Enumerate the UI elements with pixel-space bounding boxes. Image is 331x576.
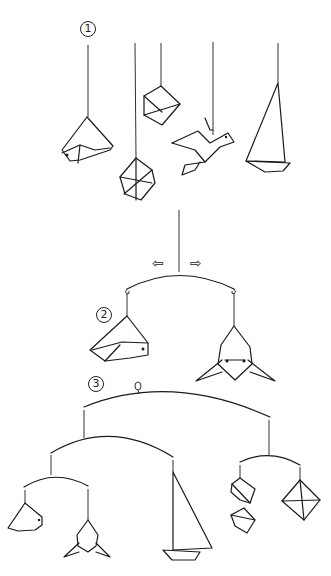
diamond-model-icon <box>120 158 155 200</box>
step-1-models <box>62 42 290 200</box>
bird-model-icon <box>8 503 42 531</box>
step-2-balance: ⇦ ⇨ <box>90 210 275 381</box>
cube-model-icon <box>231 478 255 503</box>
hanging-loop-icon <box>135 382 141 390</box>
sailboat-model-icon <box>246 83 290 172</box>
bird-model-icon <box>90 316 148 361</box>
fish-model-icon <box>64 520 110 557</box>
sailboat-model-icon <box>163 472 212 560</box>
cube-model-icon <box>231 508 255 533</box>
diamond-model-icon <box>282 480 320 520</box>
step-3-complete-mobile <box>8 382 320 560</box>
cube-model-icon <box>144 86 180 125</box>
bird-model-icon <box>62 117 113 163</box>
dove-model-icon <box>172 118 234 175</box>
arrow-left-icon: ⇦ <box>152 255 164 271</box>
arrow-right-icon: ⇨ <box>190 255 202 271</box>
mobile-diagram: ⇦ ⇨ <box>0 0 331 576</box>
fish-model-icon <box>196 326 275 381</box>
